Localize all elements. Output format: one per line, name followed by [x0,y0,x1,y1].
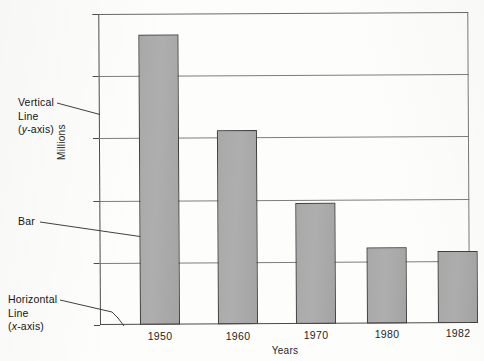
y-tick-15 [93,138,99,139]
bar-chart-figure: 25 20 15 10 5 0 Millions 1950 1960 1970 … [0,0,484,361]
y-tick-0 [94,325,100,326]
bar-1960 [217,130,258,324]
callout-x-axis-paren-close: -axis) [17,320,44,332]
callout-y-axis-line2: Line [18,110,54,124]
y-tick-10 [93,201,99,202]
callout-bar: Bar [18,215,35,229]
x-axis-title: Years [272,345,299,356]
bar-1970 [295,203,336,324]
callout-y-axis-line1: Vertical [18,96,54,110]
y-axis-title: Millions [56,124,67,160]
bar-1950 [138,35,180,325]
plot-area: 25 20 15 10 5 0 [98,12,470,325]
y-tick-5 [94,263,100,264]
callout-bar-line1: Bar [18,215,35,229]
leader-line-y-axis [57,103,100,115]
callout-x-axis: Horizontal Line (x-axis) [8,293,57,334]
x-tick-label-1960: 1960 [226,330,251,342]
callout-y-axis-paren-close: -axis) [27,123,54,135]
y-tick-25 [92,14,98,15]
callout-x-axis-line2: Line [8,307,57,321]
bar-1980 [367,247,407,323]
y-tick-20 [93,76,99,77]
x-tick-label-1980: 1980 [375,328,400,340]
callout-x-axis-line1: Horizontal [8,293,57,307]
x-tick-label-1982: 1982 [446,327,471,339]
bar-1982 [438,251,478,323]
x-tick-label-1970: 1970 [304,329,329,341]
callout-y-axis-line3: (y-axis) [18,123,54,137]
callout-x-axis-line3: (x-axis) [8,320,57,334]
x-tick-label-1950: 1950 [148,330,173,342]
callout-y-axis: Vertical Line (y-axis) [18,96,54,137]
